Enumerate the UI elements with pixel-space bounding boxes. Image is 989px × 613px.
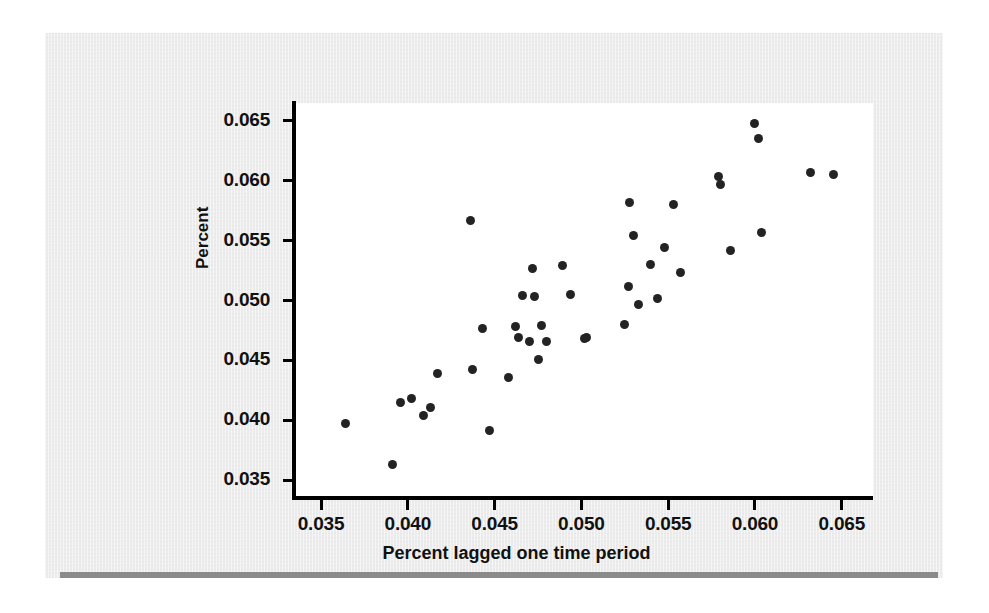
x-axis-title: Percent lagged one time period	[382, 543, 650, 564]
x-tick-label: 0.045	[471, 513, 518, 535]
scatter-point	[534, 355, 543, 364]
scatter-point	[407, 394, 416, 403]
scatter-point	[624, 282, 633, 291]
y-tick-label: 0.055	[45, 229, 270, 251]
x-tick-mark	[493, 500, 496, 510]
y-tick-label: 0.035	[45, 468, 270, 490]
scatter-point	[433, 369, 442, 378]
y-tick-label: 0.050	[45, 289, 270, 311]
y-tick-mark	[283, 299, 292, 302]
x-axis-title-wrap: Percent lagged one time period	[45, 543, 943, 564]
x-tick-label: 0.050	[558, 513, 605, 535]
scatter-point	[806, 168, 815, 177]
y-tick-mark	[283, 119, 292, 122]
scatter-point	[634, 300, 643, 309]
x-tick-label: 0.065	[818, 513, 865, 535]
scatter-point	[419, 411, 428, 420]
y-axis-title: Percent	[193, 207, 213, 269]
scatter-point	[653, 294, 662, 303]
y-tick-label: 0.040	[45, 408, 270, 430]
x-tick-mark	[840, 500, 843, 510]
y-tick-label: 0.045	[45, 348, 270, 370]
scatter-point	[716, 180, 725, 189]
scatter-point	[388, 460, 397, 469]
x-tick-mark	[406, 500, 409, 510]
x-tick-label: 0.035	[298, 513, 345, 535]
figure-panel: 0.0350.0400.0450.0500.0550.0600.065 0.03…	[45, 33, 943, 578]
y-tick-mark	[283, 479, 292, 482]
scatter-point	[525, 337, 534, 346]
x-tick-mark	[667, 500, 670, 510]
y-tick-label: 0.065	[45, 109, 270, 131]
bottom-divider-rule	[60, 572, 938, 578]
y-tick-mark	[283, 239, 292, 242]
scatter-point	[829, 170, 838, 179]
scatter-point	[504, 373, 513, 382]
y-tick-mark	[283, 179, 292, 182]
scatter-point	[466, 216, 475, 225]
x-tick-mark	[580, 500, 583, 510]
x-tick-mark	[753, 500, 756, 510]
scatter-point	[426, 403, 435, 412]
scatter-point	[726, 246, 735, 255]
scatter-point	[478, 324, 487, 333]
scatter-point	[468, 365, 477, 374]
x-tick-mark	[320, 500, 323, 510]
y-tick-mark	[283, 419, 292, 422]
x-tick-label: 0.060	[732, 513, 779, 535]
scatter-point	[528, 264, 537, 273]
plot-area	[295, 103, 873, 498]
y-axis-line	[292, 101, 296, 500]
x-tick-label: 0.055	[645, 513, 692, 535]
y-tick-mark	[283, 359, 292, 362]
scatter-point	[542, 337, 551, 346]
x-tick-label: 0.040	[385, 513, 432, 535]
y-tick-label: 0.060	[45, 169, 270, 191]
